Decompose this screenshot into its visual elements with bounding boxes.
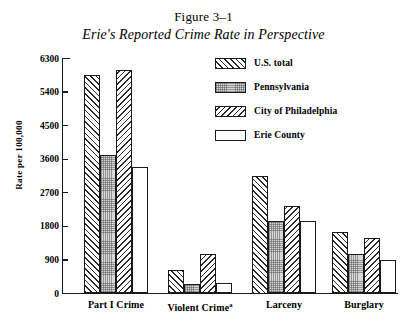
bar [184, 284, 200, 294]
plot-area: Rate per 100,000 09001800270036004500540… [0, 0, 407, 322]
legend-label: Erie County [254, 130, 305, 140]
bar [116, 70, 132, 293]
bar [200, 254, 216, 294]
bar [380, 260, 396, 294]
bar [332, 232, 348, 294]
legend-label: City of Philadelphia [254, 106, 337, 116]
footnote-marker: a [229, 301, 232, 308]
bar [84, 75, 100, 293]
legend-item: City of Philadelphia [215, 104, 405, 118]
x-tick-label: Part I Crime [88, 299, 144, 310]
bar [300, 221, 316, 294]
legend-label: U.S. total [254, 58, 293, 68]
figure-3-1: Figure 3–1 Erie's Reported Crime Rate in… [0, 0, 407, 322]
x-tick-label: Violent Crimea [167, 299, 232, 313]
bar [100, 155, 116, 294]
legend-swatch [215, 58, 246, 69]
x-tick-label: Larceny [266, 299, 302, 310]
legend-swatch [215, 82, 246, 93]
legend: U.S. totalPennsylvaniaCity of Philadelph… [215, 56, 405, 152]
legend-item: U.S. total [215, 56, 405, 70]
bar [284, 206, 300, 294]
bar [252, 176, 268, 294]
legend-swatch [215, 106, 246, 117]
legend-label: Pennsylvania [254, 82, 309, 92]
bar [268, 221, 284, 294]
legend-item: Pennsylvania [215, 80, 405, 94]
bar [132, 167, 148, 294]
bar [168, 270, 184, 293]
bar [348, 254, 364, 293]
legend-swatch [215, 130, 246, 141]
bar [216, 283, 232, 293]
x-tick-label: Burglary [344, 299, 384, 310]
legend-item: Erie County [215, 128, 405, 142]
bar [364, 238, 380, 294]
